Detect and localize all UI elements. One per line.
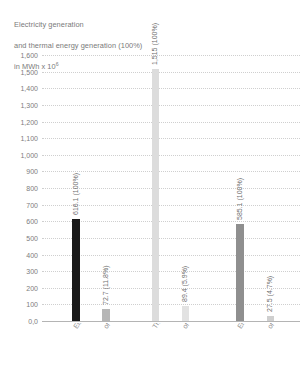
bar-group: 89.4 (5.9%): [182, 306, 189, 321]
y-axis-tick-label: 1,300: [20, 102, 38, 110]
bar-value-label: 27.5 (4.7%): [266, 276, 273, 312]
x-axis-category-label: of which renewable energies: [181, 323, 237, 330]
chart-title-line-1: Electricity generation: [14, 20, 84, 29]
bar-group: 72.7 (11.8%): [102, 309, 110, 321]
y-axis-tick-label: 600: [26, 218, 38, 226]
bar-value-label: 585.1 (100%): [236, 178, 243, 220]
bar: [152, 69, 159, 321]
x-axis-category-label: Thermal energy generation: [151, 323, 205, 330]
y-axis-tick-label: 1,600: [20, 52, 38, 60]
bar: [72, 219, 80, 321]
bar-group: 616.1 (100%): [72, 219, 80, 321]
bar: [267, 316, 274, 321]
y-axis-tick-label: 100: [26, 301, 38, 309]
y-axis-tick-label: 0,0: [28, 318, 38, 326]
bar-group: 27.5 (4.7%): [267, 316, 274, 321]
chart-title-line-2: and thermal energy generation (100%): [14, 41, 142, 50]
x-axis-labels-group: Electricity generationof which renewable…: [42, 323, 300, 365]
y-axis-tick-label: 1,100: [20, 135, 38, 143]
y-axis-tick-label: 200: [26, 285, 38, 293]
y-axis-tick-label: 700: [26, 202, 38, 210]
bar-value-label: 72.7 (11.8%): [102, 265, 109, 305]
bar-value-label: 89.4 (5.9%): [181, 266, 188, 302]
axis-baseline: 0,0: [42, 321, 300, 322]
y-axis-tick-label: 400: [26, 252, 38, 260]
bar: [102, 309, 110, 321]
bar-value-label: 616.1 (100%): [72, 173, 79, 215]
y-axis-tick-label: 900: [26, 168, 38, 176]
y-axis-tick-label: 1,200: [20, 119, 38, 127]
y-axis-tick-label: 1,000: [20, 152, 38, 160]
bar: [182, 306, 189, 321]
y-axis-tick-label: 300: [26, 268, 38, 276]
y-axis-tick-label: 1,400: [20, 85, 38, 93]
x-axis-category-label: of which renewable energies: [266, 323, 300, 330]
bar-group: 585.1 (100%): [236, 224, 244, 321]
x-axis-category-label: of which renewable energies: [102, 323, 158, 330]
bar: [236, 224, 244, 321]
y-axis-tick-label: 500: [26, 235, 38, 243]
plot-area: 1,6001,5001,4001,3001,2001,1001,00090080…: [42, 55, 300, 321]
bar-group: 1,515 (100%): [152, 69, 159, 321]
y-axis-tick-label: 1,500: [20, 69, 38, 77]
chart-container: Electricity generation and thermal energ…: [0, 0, 308, 365]
y-axis-tick-label: 800: [26, 185, 38, 193]
bars-group: 616.1 (100%)72.7 (11.8%)1,515 (100%)89.4…: [42, 55, 300, 321]
bar-value-label: 1,515 (100%): [151, 23, 158, 65]
